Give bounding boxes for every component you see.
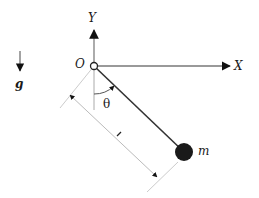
x-axis-label: X: [233, 59, 243, 73]
origin-label: O: [75, 57, 85, 71]
angle-label: θ: [103, 97, 110, 111]
mass-bob: [175, 143, 193, 161]
length-dimension: [70, 95, 157, 177]
mass-label: m: [198, 144, 209, 158]
y-axis-label: Y: [88, 11, 97, 25]
dimension-extension-bottom: [147, 162, 178, 192]
angle-indicator: θ: [94, 86, 114, 111]
y-axis: Y: [88, 11, 97, 66]
gravity-indicator: g: [15, 51, 23, 91]
gravity-label: g: [15, 77, 23, 91]
pendulum-diagram: g Y X l θ O m: [0, 0, 259, 198]
pivot-icon: [91, 63, 98, 70]
length-tick: [117, 132, 121, 136]
x-axis: X: [94, 59, 243, 73]
